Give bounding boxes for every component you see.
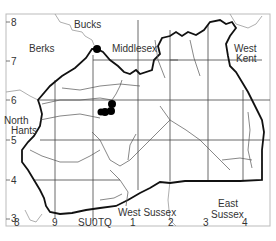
record-dots	[93, 45, 116, 116]
svg-text:4: 4	[11, 175, 17, 186]
svg-text:7: 7	[11, 56, 17, 67]
label-bucks: Bucks	[74, 19, 101, 30]
svg-text:TQ: TQ	[98, 217, 112, 228]
record-dot	[93, 45, 101, 53]
svg-text:1: 1	[130, 217, 136, 228]
svg-text:6: 6	[11, 95, 17, 106]
label-berks: Berks	[29, 43, 55, 54]
svg-text:4: 4	[242, 217, 248, 228]
record-dot	[108, 100, 116, 108]
label-east-sussex-1: East	[218, 198, 238, 209]
label-middlesex: Middlesex	[112, 43, 157, 54]
label-west-kent-2: Kent	[236, 53, 257, 64]
svg-text:8: 8	[14, 217, 20, 228]
svg-text:SU: SU	[78, 217, 92, 228]
svg-text:5: 5	[11, 135, 17, 146]
svg-text:8: 8	[11, 17, 17, 28]
svg-text:9: 9	[52, 217, 58, 228]
label-east-sussex-2: Sussex	[211, 209, 244, 220]
svg-text:3: 3	[203, 217, 209, 228]
svg-text:2: 2	[168, 217, 174, 228]
distribution-map: Bucks Berks Middlesex West Kent North Ha…	[0, 0, 276, 241]
record-dot	[98, 109, 105, 116]
